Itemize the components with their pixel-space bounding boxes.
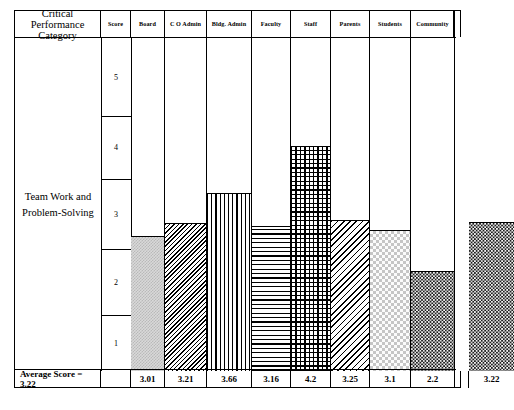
header-staff: Staff <box>291 11 331 38</box>
row-category-label: Team Work and Problem-Solving <box>15 38 101 371</box>
score-axis: 5 4 3 2 1 <box>101 38 131 371</box>
header-community: Community <box>411 11 455 38</box>
header-score: Score <box>101 11 131 38</box>
axis-rule-3-2 <box>101 249 131 250</box>
header-staff-text: Staff <box>304 21 317 28</box>
header-parents: Parents <box>331 11 370 38</box>
header-critical-performance-category: Critical Performance Category <box>15 11 101 38</box>
bar-average[interactable] <box>469 222 514 371</box>
header-score-text: Score <box>108 21 123 28</box>
header-students: Students <box>370 11 411 38</box>
bar-column-co-admin[interactable] <box>165 38 207 371</box>
axis-tick-3: 3 <box>101 179 131 249</box>
footer-value-board: 3.01 <box>131 370 165 388</box>
bar-column-students[interactable] <box>370 38 411 371</box>
bar-column-staff[interactable] <box>291 38 331 371</box>
footer-value-bldg-admin: 3.66 <box>207 370 252 388</box>
chart-plot-area: Team Work and Problem-Solving 5 4 3 2 1 <box>15 38 460 371</box>
footer-value-average: 3.22 <box>468 370 514 388</box>
column-gap-separator <box>456 37 469 371</box>
bar-bldg-admin[interactable] <box>207 193 251 371</box>
footer-value-community: 2.2 <box>411 370 455 388</box>
axis-tick-1: 1 <box>101 315 131 371</box>
header-parents-text: Parents <box>340 21 361 28</box>
bar-students[interactable] <box>370 230 410 371</box>
bar-column-parents[interactable] <box>331 38 370 371</box>
footer-value-staff: 4.2 <box>291 370 331 388</box>
axis-rule-2-1 <box>101 315 131 316</box>
average-column-left-border-top <box>453 10 454 38</box>
footer-value-students: 3.1 <box>370 370 411 388</box>
axis-tick-2: 2 <box>101 249 131 315</box>
axis-rule-4-3 <box>101 179 131 180</box>
header-co-admin-text: C O Admin <box>170 21 201 28</box>
axis-rule-5-4 <box>101 116 131 117</box>
axis-tick-5: 5 <box>101 38 131 116</box>
header-faculty-text: Faculty <box>261 21 282 28</box>
bar-column-board[interactable] <box>131 38 165 371</box>
header-community-text: Community <box>416 21 449 28</box>
bar-faculty[interactable] <box>252 226 290 371</box>
header-faculty: Faculty <box>252 11 291 38</box>
bar-parents[interactable] <box>331 220 369 371</box>
footer-value-parents: 3.25 <box>331 370 370 388</box>
table-header-row: Critical Performance Category Score Boar… <box>15 11 460 38</box>
bar-column-average[interactable] <box>468 38 514 371</box>
footer-average-score-label: Average Score = 3.22 <box>15 370 101 388</box>
table-footer-row: Average Score = 3.22 3.01 3.21 3.66 3.16… <box>15 369 460 387</box>
axis-tick-4: 4 <box>101 116 131 179</box>
header-bldg-admin-text: Bldg. Admin <box>212 21 246 28</box>
footer-value-co-admin: 3.21 <box>165 370 207 388</box>
footer-value-faculty: 3.16 <box>252 370 291 388</box>
bar-column-bldg-admin[interactable] <box>207 38 252 371</box>
performance-table: Critical Performance Category Score Boar… <box>14 10 461 388</box>
header-board: Board <box>131 11 165 38</box>
bar-column-community[interactable] <box>411 38 455 371</box>
row-category-text: Team Work and Problem-Solving <box>15 189 101 219</box>
header-co-admin: C O Admin <box>165 11 207 38</box>
bar-staff[interactable] <box>291 146 330 371</box>
bar-co-admin[interactable] <box>165 223 206 371</box>
bar-column-faculty[interactable] <box>252 38 291 371</box>
header-bottom-rule <box>14 37 441 39</box>
header-students-text: Students <box>378 21 402 28</box>
header-bldg-admin: Bldg. Admin <box>207 11 252 38</box>
footer-score-spacer <box>101 370 131 388</box>
bar-community[interactable] <box>411 271 454 371</box>
bar-board[interactable] <box>131 236 164 371</box>
footer-average-score-text: Average Score = 3.22 <box>20 369 100 389</box>
header-board-text: Board <box>139 21 156 28</box>
